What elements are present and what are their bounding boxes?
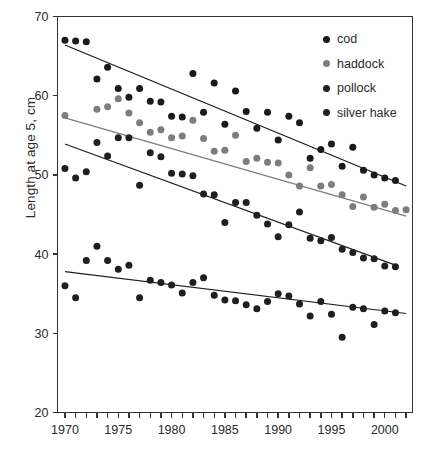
data-point bbox=[328, 311, 335, 318]
legend-label: haddock bbox=[337, 57, 384, 71]
data-point bbox=[296, 182, 303, 189]
data-point bbox=[381, 308, 388, 315]
data-point bbox=[125, 262, 132, 269]
data-point bbox=[349, 144, 356, 151]
data-point bbox=[285, 221, 292, 228]
data-point bbox=[147, 149, 154, 156]
data-point bbox=[328, 181, 335, 188]
x-tick-label: 1975 bbox=[104, 423, 132, 437]
data-point bbox=[168, 113, 175, 120]
data-point bbox=[317, 182, 324, 189]
data-point bbox=[360, 194, 367, 201]
data-point bbox=[147, 129, 154, 136]
data-point bbox=[179, 171, 186, 178]
data-point bbox=[125, 110, 132, 117]
data-point bbox=[403, 206, 410, 213]
data-point bbox=[115, 95, 122, 102]
data-point bbox=[157, 126, 164, 133]
data-point bbox=[392, 309, 399, 316]
data-point bbox=[93, 139, 100, 146]
data-point bbox=[189, 70, 196, 77]
data-point bbox=[189, 117, 196, 124]
data-point bbox=[157, 153, 164, 160]
legend-marker-icon bbox=[323, 109, 330, 116]
data-point bbox=[61, 282, 68, 289]
data-point bbox=[168, 134, 175, 141]
y-axis-title: Length at age 5, cm bbox=[23, 68, 38, 248]
data-point bbox=[104, 64, 111, 71]
data-point bbox=[275, 160, 282, 167]
data-point bbox=[72, 294, 79, 301]
y-tick-label: 40 bbox=[35, 248, 49, 262]
x-tick-label: 1970 bbox=[51, 423, 79, 437]
data-point bbox=[93, 243, 100, 250]
data-point bbox=[360, 167, 367, 174]
data-point bbox=[381, 175, 388, 182]
data-point bbox=[168, 170, 175, 177]
data-point bbox=[317, 146, 324, 153]
data-point bbox=[371, 321, 378, 328]
data-point bbox=[296, 209, 303, 216]
data-point bbox=[307, 312, 314, 319]
x-tick-label: 1980 bbox=[158, 423, 186, 437]
data-point bbox=[61, 112, 68, 119]
data-point bbox=[104, 103, 111, 110]
legend-item-cod[interactable]: cod bbox=[323, 27, 423, 52]
legend-item-silver-hake[interactable]: silver hake bbox=[323, 101, 423, 126]
series-silver-hake bbox=[61, 243, 406, 341]
data-point bbox=[61, 165, 68, 172]
data-point bbox=[264, 298, 271, 305]
data-point bbox=[307, 164, 314, 171]
data-point bbox=[104, 152, 111, 159]
data-point bbox=[211, 292, 218, 299]
x-tick-label: 1985 bbox=[211, 423, 239, 437]
data-point bbox=[253, 125, 260, 132]
figure: 2030405060701970197519801985199019952000… bbox=[0, 0, 430, 456]
data-point bbox=[232, 132, 239, 139]
data-point bbox=[328, 234, 335, 241]
data-point bbox=[189, 172, 196, 179]
legend-item-pollock[interactable]: pollock bbox=[323, 76, 423, 101]
data-point bbox=[264, 109, 271, 116]
x-tick-label: 1995 bbox=[318, 423, 346, 437]
y-tick-label: 20 bbox=[35, 406, 49, 420]
data-point bbox=[349, 203, 356, 210]
data-point bbox=[157, 279, 164, 286]
data-point bbox=[275, 290, 282, 297]
data-point bbox=[200, 109, 207, 116]
legend-item-haddock[interactable]: haddock bbox=[323, 52, 423, 77]
data-point bbox=[211, 80, 218, 87]
data-point bbox=[179, 133, 186, 140]
data-point bbox=[371, 255, 378, 262]
data-point bbox=[93, 76, 100, 83]
data-point bbox=[275, 137, 282, 144]
data-point bbox=[72, 38, 79, 45]
data-point bbox=[392, 207, 399, 214]
data-point bbox=[147, 277, 154, 284]
data-point bbox=[83, 38, 90, 45]
data-point bbox=[307, 155, 314, 162]
data-point bbox=[93, 106, 100, 113]
data-point bbox=[285, 113, 292, 120]
data-point bbox=[221, 147, 228, 154]
data-point bbox=[136, 182, 143, 189]
legend-marker-icon bbox=[323, 85, 330, 92]
data-point bbox=[211, 148, 218, 155]
data-point bbox=[253, 305, 260, 312]
data-point bbox=[264, 221, 271, 228]
data-point bbox=[317, 237, 324, 244]
data-point bbox=[125, 134, 132, 141]
data-point bbox=[115, 134, 122, 141]
data-point bbox=[125, 94, 132, 101]
data-point bbox=[339, 334, 346, 341]
data-point bbox=[349, 249, 356, 256]
data-point bbox=[115, 266, 122, 273]
data-point bbox=[136, 294, 143, 301]
data-point bbox=[243, 108, 250, 115]
x-tick-label: 1990 bbox=[264, 423, 292, 437]
data-point bbox=[104, 257, 111, 264]
y-tick-label: 70 bbox=[35, 10, 49, 24]
data-point bbox=[285, 293, 292, 300]
data-point bbox=[200, 135, 207, 142]
data-point bbox=[83, 257, 90, 264]
